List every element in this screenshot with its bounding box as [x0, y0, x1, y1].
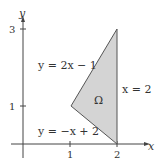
curve-label-upper: y = 2x − 1: [37, 59, 97, 72]
y-tick-label-1: 1: [9, 101, 15, 112]
y-tick-label-3: 3: [9, 24, 15, 35]
plot-svg: x y 1 2 1 3 Ω y = 2x − 1 x = 2 y = −x + …: [0, 0, 162, 167]
x-axis-label: x: [148, 140, 155, 153]
curve-label-lower: y = −x + 2: [37, 125, 99, 138]
x-tick-label-1: 1: [67, 149, 73, 160]
region-label: Ω: [94, 94, 103, 107]
y-axis-label: y: [18, 7, 26, 20]
curve-label-vertical: x = 2: [122, 83, 151, 96]
diagram: x y 1 2 1 3 Ω y = 2x − 1 x = 2 y = −x + …: [0, 0, 162, 167]
x-tick-label-2: 2: [114, 149, 120, 160]
